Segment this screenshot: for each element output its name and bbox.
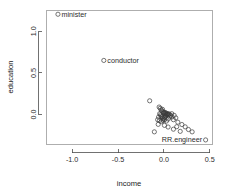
data-points xyxy=(56,12,208,142)
x-tick-label: 0.5 xyxy=(205,155,215,164)
x-tick-label: -0.5 xyxy=(112,155,124,164)
data-point xyxy=(178,129,182,133)
data-point xyxy=(176,120,180,124)
data-point xyxy=(204,138,208,142)
scatterplot-figure: -1.0-0.50.00.5 0.00.51.0 ministerconduct… xyxy=(0,0,225,193)
x-axis-title: income xyxy=(117,179,141,188)
x-tick-label: -1.0 xyxy=(66,155,78,164)
y-axis: 0.00.51.0 xyxy=(29,26,42,119)
point-label-minister: minister xyxy=(61,10,87,19)
y-axis-title: education xyxy=(6,61,15,94)
data-point xyxy=(190,130,194,134)
data-point xyxy=(152,130,156,134)
x-axis: -1.0-0.50.00.5 xyxy=(66,149,215,164)
plot-canvas: -1.0-0.50.00.5 0.00.51.0 ministerconduct… xyxy=(0,0,225,193)
data-point xyxy=(148,99,152,103)
y-tick-label: 0.5 xyxy=(29,68,38,78)
data-point xyxy=(156,122,160,126)
x-tick-label: 0.0 xyxy=(159,155,169,164)
data-point xyxy=(175,125,179,129)
data-point xyxy=(102,58,106,62)
data-point xyxy=(166,125,170,129)
point-annotations: ministerconductorRR.engineer xyxy=(61,10,202,145)
panel-border xyxy=(47,11,213,145)
point-label-conductor: conductor xyxy=(107,56,139,65)
point-label-rr-engineer: RR.engineer xyxy=(162,135,203,144)
plot-panel xyxy=(47,11,213,145)
data-point xyxy=(56,12,60,16)
y-tick-label: 0.0 xyxy=(29,110,38,120)
y-tick-label: 1.0 xyxy=(29,26,38,36)
